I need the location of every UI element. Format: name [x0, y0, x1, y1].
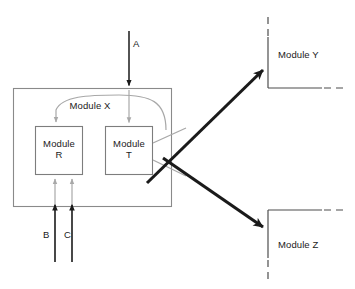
module-x-label: Module X: [70, 100, 111, 111]
signal-b-label: B: [43, 229, 49, 240]
signal-c-label: C: [64, 229, 71, 240]
module-y-label: Module Y: [278, 49, 319, 60]
module-z-label: Module Z: [278, 239, 318, 250]
module-t-label: Module T: [113, 138, 145, 160]
module-t-to-module-y-arrow: [147, 70, 263, 183]
signal-a-label: A: [133, 38, 139, 49]
module-t-label-line2: T: [113, 149, 145, 160]
module-t-label-line1: Module: [113, 138, 145, 149]
module-r-label-line2: R: [43, 149, 75, 160]
module-r-label: Module R: [43, 138, 75, 160]
module-r-label-line1: Module: [43, 138, 75, 149]
diagram-canvas: Module X Module R Module T Module Y Modu…: [0, 0, 355, 289]
module-t-output-upper-stub: [153, 128, 186, 143]
module-t-to-module-z-arrow: [163, 158, 263, 227]
